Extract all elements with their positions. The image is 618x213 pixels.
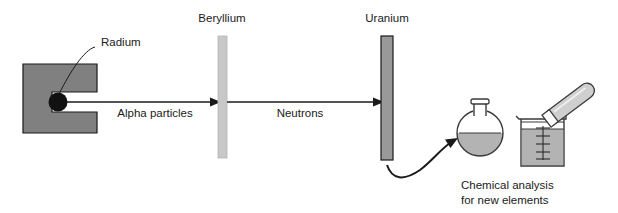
radium-source: [49, 93, 68, 112]
radium-source-dot: [49, 93, 68, 112]
diagram-canvas: Radium Alpha particles Beryllium Neutron…: [0, 0, 618, 213]
graduated-beaker: [516, 116, 566, 166]
beryllium-bar: [218, 36, 227, 158]
flask-liquid: [455, 133, 505, 165]
flask-lip: [471, 99, 489, 104]
alpha-particle-arrow: [66, 98, 221, 107]
round-bottom-flask: [455, 99, 505, 165]
flask-neck-mask: [474, 103, 486, 116]
label-beryllium: Beryllium: [198, 12, 245, 24]
test-tube: [542, 80, 597, 127]
uranium-bar: [381, 36, 393, 160]
curved-arrow-shaft: [387, 143, 450, 177]
label-alpha-particles: Alpha particles: [117, 107, 193, 119]
label-radium: Radium: [101, 36, 141, 48]
neutron-arrow: [227, 98, 384, 107]
analysis-curved-arrow: [387, 138, 458, 177]
beryllium-target: [218, 36, 227, 158]
label-neutrons: Neutrons: [277, 107, 324, 119]
neutron-experiment-diagram: Radium Alpha particles Beryllium Neutron…: [0, 0, 618, 213]
caption-line-2: for new elements: [461, 194, 549, 206]
caption-line-1: Chemical analysis: [461, 179, 554, 191]
label-uranium: Uranium: [365, 12, 408, 24]
uranium-target: [381, 36, 393, 160]
